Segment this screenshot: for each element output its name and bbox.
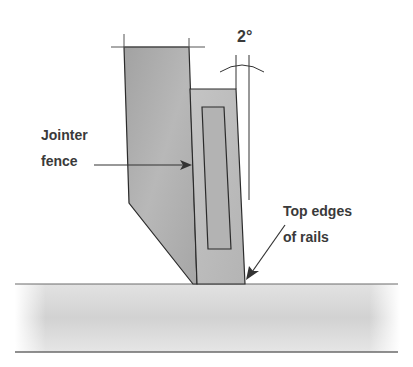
angle-label: 2° bbox=[237, 28, 252, 45]
diagram-graphic bbox=[0, 0, 413, 367]
rails-label-line1: Top edges bbox=[283, 203, 352, 220]
fence-label-line2: fence bbox=[41, 153, 78, 170]
jointer-fence-diagram: 2° Jointer fence Top edges of rails bbox=[0, 0, 413, 367]
jointer-table bbox=[15, 284, 400, 352]
rails-label-line2: of rails bbox=[283, 229, 329, 246]
fence-label-line1: Jointer bbox=[41, 127, 88, 144]
jointer-fence-shape bbox=[111, 34, 205, 284]
rail-body bbox=[190, 89, 245, 284]
rails-arrow bbox=[246, 225, 285, 280]
